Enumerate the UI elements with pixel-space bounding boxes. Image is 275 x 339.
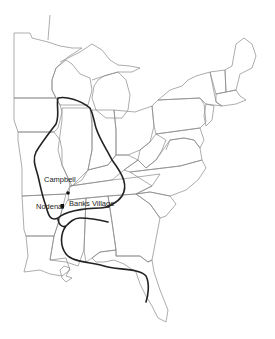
map-canvas [0, 0, 275, 339]
site-marker-campbell [66, 191, 70, 195]
state-outlines [14, 15, 256, 322]
site-label-campbell: Campbell [44, 176, 76, 184]
site-label-nodena: Nodena [36, 203, 62, 211]
site-label-banks-village: Banks Village [69, 200, 114, 208]
